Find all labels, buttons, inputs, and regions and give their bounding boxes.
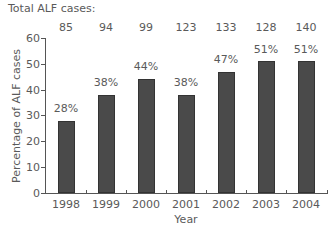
x-tick	[166, 190, 167, 194]
bar-2003	[258, 61, 275, 193]
y-tick-label: 10	[26, 161, 40, 174]
y-tick-label: 30	[26, 109, 40, 122]
bar-1998	[58, 121, 75, 193]
x-tick-label: 2002	[212, 198, 240, 211]
y-tick-label: 20	[26, 135, 40, 148]
bar-1999	[98, 95, 115, 193]
totals-title: Total ALF cases:	[8, 2, 95, 15]
total-count: 99	[139, 21, 153, 34]
y-tick-label: 60	[26, 32, 40, 45]
x-tick	[286, 190, 287, 194]
y-tick-label: 40	[26, 84, 40, 97]
bar-2001	[178, 95, 195, 193]
bar-value-label: 38%	[94, 76, 118, 89]
bar-2002	[218, 72, 235, 193]
y-tick-label: 50	[26, 58, 40, 71]
y-tick	[41, 64, 45, 65]
total-count: 133	[216, 21, 237, 34]
y-tick	[41, 141, 45, 142]
x-tick-label: 2004	[292, 198, 320, 211]
y-tick	[41, 115, 45, 116]
bar-value-label: 51%	[294, 43, 318, 56]
bar-value-label: 28%	[54, 102, 78, 115]
total-count: 85	[59, 21, 73, 34]
x-tick-label: 2001	[172, 198, 200, 211]
x-tick-label: 1999	[92, 198, 120, 211]
x-tick	[86, 190, 87, 194]
bar-value-label: 47%	[214, 53, 238, 66]
y-axis	[45, 38, 46, 194]
x-tick-label: 1998	[52, 198, 80, 211]
y-tick	[41, 167, 45, 168]
total-count: 128	[256, 21, 277, 34]
bar-value-label: 38%	[174, 76, 198, 89]
total-count: 140	[296, 21, 317, 34]
x-tick	[126, 190, 127, 194]
x-axis-label: Year	[174, 213, 197, 226]
y-tick-label: 0	[33, 187, 40, 200]
bar-value-label: 51%	[254, 43, 278, 56]
y-axis-label: Percentage of ALF cases	[10, 49, 23, 183]
bar-2004	[298, 61, 315, 193]
x-tick	[206, 190, 207, 194]
bar-2000	[138, 79, 155, 193]
x-tick-label: 2003	[252, 198, 280, 211]
x-tick	[246, 190, 247, 194]
total-count: 94	[99, 21, 113, 34]
bar-value-label: 44%	[134, 60, 158, 73]
x-tick	[327, 190, 328, 194]
total-count: 123	[176, 21, 197, 34]
x-tick-label: 2000	[132, 198, 160, 211]
y-tick	[41, 38, 45, 39]
y-tick	[41, 90, 45, 91]
